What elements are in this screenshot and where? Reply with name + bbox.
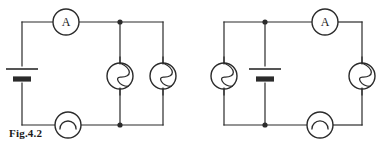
- lamp-left-filament: [222, 63, 234, 86]
- bell-bottom-dome: [312, 121, 328, 129]
- lamp-left-body: [211, 63, 237, 89]
- lamp-right-filament: [360, 63, 372, 86]
- junction-top-dot: [262, 19, 267, 24]
- bell-bottom: [307, 112, 333, 138]
- circuit-layer: AA: [6, 9, 375, 138]
- junction-top-dot: [117, 19, 122, 24]
- circuit-right: A: [211, 9, 375, 138]
- bell-bottom-dome: [60, 121, 76, 129]
- figure-caption: Fig.4.2: [9, 127, 42, 139]
- lamp-middle-body: [107, 63, 133, 89]
- lamp-middle: [107, 57, 133, 95]
- bell-bottom: [55, 112, 81, 138]
- junction-bottom-dot: [117, 122, 122, 127]
- ammeter-top: A: [312, 9, 338, 35]
- lamp-right: [349, 57, 375, 95]
- ammeter-top-label: A: [321, 15, 330, 29]
- bell-bottom-body: [307, 112, 333, 138]
- lamp-left: [211, 57, 237, 95]
- ammeter-top: A: [53, 9, 79, 35]
- battery-left: [6, 69, 38, 79]
- junction-bottom-dot: [262, 122, 267, 127]
- lamp-right-body: [150, 63, 176, 89]
- battery-middle: [249, 69, 281, 79]
- circuit-diagram: AA: [0, 0, 383, 152]
- figure-container: AA Fig.4.2: [0, 0, 383, 152]
- circuit-left: A: [6, 9, 176, 138]
- lamp-right: [150, 57, 176, 95]
- lamp-right-filament: [161, 63, 173, 86]
- lamp-right-body: [349, 63, 375, 89]
- bell-bottom-body: [55, 112, 81, 138]
- ammeter-top-label: A: [62, 15, 71, 29]
- lamp-middle-filament: [118, 63, 130, 86]
